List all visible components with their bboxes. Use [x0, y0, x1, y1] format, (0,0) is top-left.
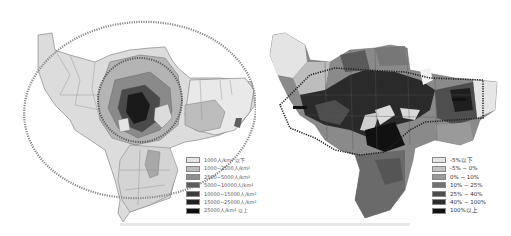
- legend-item: 15000~25000人/km²: [186, 198, 256, 206]
- legend-item: 10% ~ 25%: [432, 181, 486, 189]
- legend-swatch: [432, 182, 446, 188]
- population-change-map: -5%以下 -5% ~ 0% 0% ~ 10% 10% ~ 25% 25% ~ …: [255, 0, 511, 236]
- legend-item: 5000~10000人/km²: [186, 181, 256, 189]
- density-legend: 1000人/km² 以下 1000~2500人/km² 2500~5000人/k…: [186, 156, 256, 215]
- legend-item: 0% ~ 10%: [432, 173, 486, 181]
- legend-swatch: [432, 157, 446, 163]
- legend-swatch: [432, 199, 446, 205]
- change-legend: -5%以下 -5% ~ 0% 0% ~ 10% 10% ~ 25% 25% ~ …: [432, 156, 486, 215]
- legend-item: 25% ~ 40%: [432, 190, 486, 198]
- legend-swatch: [432, 191, 446, 197]
- legend-swatch: [432, 208, 446, 214]
- legend-item: -5% ~ 0%: [432, 164, 486, 172]
- legend-item: 40% ~ 100%: [432, 198, 486, 206]
- population-density-map: 1000人/km² 以下 1000~2500人/km² 2500~5000人/k…: [0, 0, 256, 236]
- legend-item: -5%以下: [432, 156, 486, 164]
- legend-item: 25000人/km² 以上: [186, 206, 256, 214]
- legend-swatch: [432, 174, 446, 180]
- legend-swatch: [432, 166, 446, 172]
- legend-swatch: [186, 182, 200, 188]
- legend-swatch: [186, 199, 200, 205]
- legend-swatch: [186, 208, 200, 214]
- figure-caption: [120, 222, 410, 228]
- legend-swatch: [186, 166, 200, 172]
- legend-item: 1000人/km² 以下: [186, 156, 256, 164]
- legend-item: 2500~5000人/km²: [186, 173, 256, 181]
- legend-swatch: [186, 191, 200, 197]
- legend-item: 100%以上: [432, 206, 486, 214]
- legend-item: 10000~15000人/km²: [186, 190, 256, 198]
- legend-item: 1000~2500人/km²: [186, 164, 256, 172]
- legend-swatch: [186, 174, 200, 180]
- legend-swatch: [186, 157, 200, 163]
